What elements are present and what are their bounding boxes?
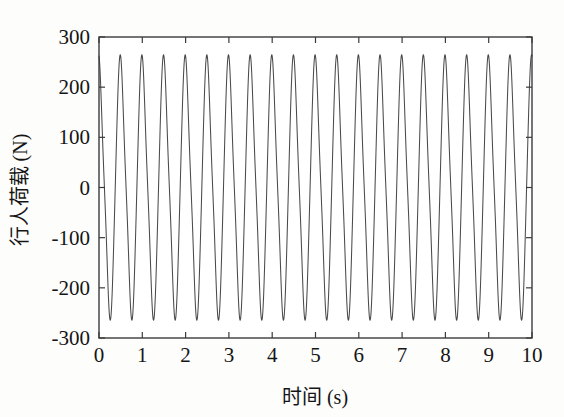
x-axis-title: 时间 (s): [282, 386, 348, 409]
x-tick-label: 6: [354, 343, 365, 367]
x-tick-label: 2: [180, 343, 191, 367]
y-tick-label: 300: [59, 25, 91, 49]
chart-figure: 012345678910 -300-200-1000100200300 时间 (…: [0, 0, 564, 417]
plot-area-background: [99, 37, 532, 338]
x-tick-label: 4: [267, 343, 278, 367]
x-tick-label: 8: [440, 343, 451, 367]
x-tick-label: 7: [397, 343, 408, 367]
pedestrian-load-time-history-chart: 012345678910 -300-200-1000100200300 时间 (…: [0, 0, 564, 417]
x-tick-label: 10: [522, 343, 543, 367]
y-tick-label: -100: [52, 226, 91, 250]
y-axis-title: 行人荷载 (N): [9, 134, 32, 247]
x-tick-label: 3: [224, 343, 235, 367]
y-tick-label: -300: [52, 326, 91, 350]
x-tick-label: 0: [94, 343, 105, 367]
y-tick-label: 0: [80, 176, 91, 200]
x-tick-label: 9: [483, 343, 494, 367]
x-tick-label: 5: [310, 343, 321, 367]
y-tick-label: 100: [59, 125, 91, 149]
x-tick-labels: 012345678910: [94, 343, 543, 367]
y-tick-label: 200: [59, 75, 91, 99]
y-tick-label: -200: [52, 276, 91, 300]
x-tick-label: 1: [137, 343, 148, 367]
y-tick-labels: -300-200-1000100200300: [52, 25, 91, 350]
